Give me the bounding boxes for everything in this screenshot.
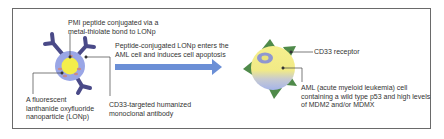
label-pmi-peptide: PMI peptide conjugated via a metal-thiol… <box>68 19 158 36</box>
label-peptide-conjugated-lonp: Peptide-conjugated LONp enters the AML c… <box>115 42 229 59</box>
label-nanoparticle: A fluorescent lanthanide oxyfluoride nan… <box>26 96 94 122</box>
label-cd33-antibody: CD33-targeted humanized monoclonal antib… <box>109 101 191 118</box>
antibody-icon-top-left <box>45 34 64 56</box>
arrow-icon <box>115 59 222 75</box>
antibody-icon-top-right <box>77 38 94 56</box>
label-aml-cell: AML (acute myeloid leukemia) cell contai… <box>301 84 430 110</box>
label-cd33-receptor: CD33 receptor <box>314 48 360 57</box>
